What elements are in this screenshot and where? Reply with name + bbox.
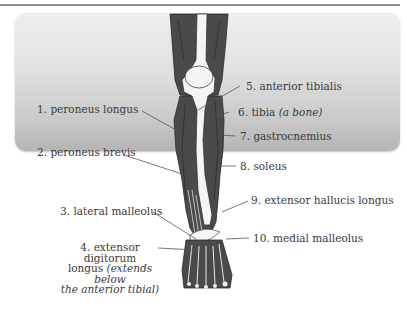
label-text: lateral malleolus: [73, 205, 162, 217]
label-line-2: longus (extends below: [55, 263, 165, 284]
label-extensor-hallucis-longus: 9. extensor hallucis longus: [251, 194, 394, 206]
label-number: 1.: [37, 103, 47, 115]
label-anterior-tibialis: 5. anterior tibialis: [246, 80, 342, 92]
label-number: 8.: [240, 160, 250, 172]
label-text: soleus: [253, 160, 286, 172]
label-peroneus-longus: 1. peroneus longus: [37, 103, 138, 115]
label-tibia: 6. tibia (a bone): [238, 106, 322, 118]
label-text: peroneus longus: [50, 103, 138, 115]
label-number: 6.: [238, 106, 248, 118]
label-text: anterior tibialis: [259, 80, 342, 92]
label-extensor-digitorum-longus: 4. extensor digitorum longus (extends be…: [55, 242, 165, 295]
label-number: 2.: [37, 146, 47, 158]
label-text: peroneus brevis: [50, 146, 135, 158]
label-text: extensor hallucis longus: [264, 194, 393, 206]
label-number: 9.: [251, 194, 261, 206]
label-note: (a bone): [279, 106, 323, 118]
label-line-1: 4. extensor digitorum: [55, 242, 165, 263]
label-gastrocnemius: 7. gastrocnemius: [240, 130, 332, 142]
label-line-3: the anterior tibial): [55, 284, 165, 295]
label-number: 7.: [240, 130, 250, 142]
label-text: gastrocnemius: [253, 130, 331, 142]
label-soleus: 8. soleus: [240, 160, 287, 172]
label-medial-malleolus: 10. medial malleolus: [253, 232, 363, 244]
label-number: 3.: [60, 205, 70, 217]
label-number: 10.: [253, 232, 270, 244]
label-peroneus-brevis: 2. peroneus brevis: [37, 146, 136, 158]
label-number: 5.: [246, 80, 256, 92]
label-text: tibia: [251, 106, 275, 118]
label-text: medial malleolus: [273, 232, 363, 244]
label-lateral-malleolus: 3. lateral malleolus: [60, 205, 162, 217]
